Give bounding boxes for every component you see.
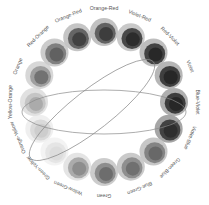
color-label: Blue-Violet bbox=[195, 90, 201, 116]
color-swatch bbox=[90, 18, 118, 46]
color-label: Violet-Red bbox=[128, 8, 153, 23]
color-label: Orange bbox=[11, 57, 23, 75]
color-label: Orange-Red bbox=[54, 7, 83, 24]
color-circles bbox=[20, 18, 188, 186]
color-label: Violet bbox=[185, 59, 196, 74]
color-swatch bbox=[63, 23, 91, 51]
color-swatch bbox=[25, 115, 53, 143]
color-swatch bbox=[155, 61, 183, 89]
color-label: Orange-Yellow bbox=[8, 121, 27, 155]
harmony-ellipse bbox=[22, 90, 186, 134]
color-label: Orange-Red bbox=[90, 5, 119, 11]
color-label: Blue-Green bbox=[126, 181, 153, 197]
color-label: Green bbox=[97, 193, 112, 199]
color-swatch bbox=[90, 158, 118, 186]
color-label: Yellow-Orange bbox=[7, 85, 13, 119]
color-swatch bbox=[117, 153, 145, 181]
color-swatch bbox=[160, 88, 188, 116]
color-wheel-diagram: Orange-RedViolet-RedRed-VioletVioletBlue… bbox=[0, 0, 209, 205]
color-label: Violet-Blue bbox=[183, 125, 198, 150]
color-label: Yellow-Green bbox=[53, 180, 84, 197]
color-swatch bbox=[20, 88, 48, 116]
